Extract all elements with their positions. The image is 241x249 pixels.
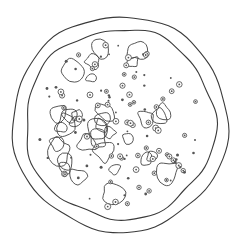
pepper-dot [55,86,58,89]
topping-center-dot [158,150,160,152]
topping-center-dot [125,64,127,66]
topping-center-dot [64,173,66,175]
pepper-dot [38,138,41,141]
pepper-dot [82,119,85,122]
topping-center-dot [152,158,154,160]
topping-center-dot [78,118,80,120]
outer-crust-outline [12,17,229,233]
pepper-dot [74,68,77,71]
topping-center-dot [145,54,147,56]
pepper-dot [123,194,125,196]
topping-center-dot [94,63,96,65]
pepper-dot [74,131,77,134]
pepper-dot [65,60,68,63]
pepper-dot [183,171,186,174]
pepper-dot [176,153,179,156]
pepper-dot [194,139,196,141]
cheese-blob [47,137,69,167]
topping-center-dot [92,68,94,70]
topping-center-dot [148,122,150,124]
pepper-dot [174,161,177,164]
topping-center-dot [148,190,150,192]
cheese-blob [156,163,178,186]
topping-center-dot [184,135,186,137]
topping-center-dot [145,147,147,149]
pepper-dot [144,193,147,196]
topping-center-dot [86,136,88,138]
topping-center-dot [119,156,121,158]
pepper-dot [70,157,72,159]
cheese-blob [61,58,84,82]
topping-center-dot [105,44,107,46]
topping-center-dot [63,107,65,109]
topping-center-dot [107,206,109,208]
pepper-dot [100,166,103,169]
pepper-dot [144,108,147,111]
pepper-dot [46,87,49,90]
pepper-dot [143,74,145,76]
topping-center-dot [133,76,135,78]
topping-center-dot [96,146,98,148]
topping-center-dot [110,181,112,183]
topping-center-dot [107,104,109,106]
topping-center-dot [106,91,108,93]
pepper-dot [135,71,137,73]
topping-center-dot [89,94,91,96]
topping-center-dot [129,104,131,106]
pepper-dot [117,45,119,47]
pepper-dot [77,177,80,180]
pizza-drawing [0,0,241,249]
pepper-dot [100,90,102,92]
pepper-dot [127,130,129,132]
pizza-illustration [0,0,241,249]
topping-center-dot [195,101,197,103]
topping-center-dot [178,84,180,86]
topping-center-dot [97,105,99,107]
topping-center-dot [157,130,159,132]
pepper-dot [115,112,117,114]
pepper-dot [170,180,172,182]
pepper-dot [90,154,92,156]
topping-center-dot [178,165,180,167]
topping-center-dot [78,54,80,56]
topping-center-dot [173,159,175,161]
pepper-dot [108,100,110,102]
topping-center-dot [162,98,164,100]
pepper-dot [143,84,145,86]
cheese-blob [138,111,154,128]
pepper-dot [179,166,181,168]
topping-center-dot [156,106,158,108]
pepper-dot [89,198,91,200]
pepper-dot [175,158,178,161]
cheese-blob [94,113,110,126]
cheese-blob [86,74,97,82]
cheese-blob [109,165,121,175]
topping-center-dot [127,57,129,59]
topping-center-dot [122,85,124,87]
pepper-dot [86,165,89,168]
pepper-dot [47,157,49,159]
pepper-dot [192,152,195,155]
pepper-dot [76,99,78,101]
pepper-dot [48,96,50,98]
topping-center-dot [171,90,173,92]
topping-center-dot [153,172,155,174]
topping-center-dot [115,201,117,203]
pepper-dot [126,155,128,157]
pepper-dot [121,98,124,101]
pepper-dot [108,96,110,98]
topping-center-dot [115,120,117,122]
topping-center-dot [129,94,131,96]
topping-center-dot [169,156,171,158]
topping-center-dot [166,179,168,181]
cheese-blob [104,126,116,139]
topping-center-dot [137,155,139,157]
cheese-blob [122,133,133,144]
topping-center-dot [60,91,62,93]
pepper-dot [108,53,110,55]
pepper-dot [127,177,130,180]
pepper-dot [100,56,102,58]
topping-center-dot [138,187,140,189]
topping-center-dot [130,122,132,124]
pepper-dot [170,77,172,79]
